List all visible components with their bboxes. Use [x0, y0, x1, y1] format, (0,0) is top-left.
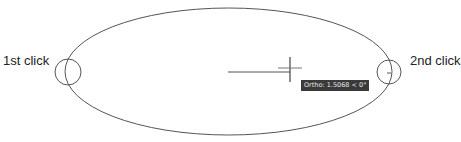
second-click-marker-icon	[377, 60, 401, 84]
ortho-tooltip: Ortho: 1.5068 < 0°	[301, 80, 369, 91]
first-click-marker-icon	[55, 59, 81, 85]
first-click-label: 1st click	[3, 53, 49, 68]
crosshair-cursor-icon	[278, 57, 302, 82]
second-click-label: 2nd click	[410, 53, 461, 68]
